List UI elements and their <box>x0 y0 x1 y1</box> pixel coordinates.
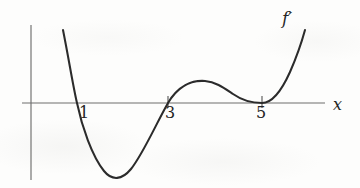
x-tick-label-5: 5 <box>256 105 266 121</box>
derivative-graph-figure: x f′ 1 3 5 <box>0 0 360 188</box>
x-tick-label-3: 3 <box>165 105 175 121</box>
f-prime-curve-label: f′ <box>282 10 292 27</box>
x-tick-label-1: 1 <box>79 105 89 121</box>
plot-canvas <box>0 0 360 188</box>
f-prime-curve <box>63 30 305 178</box>
x-axis-label: x <box>333 97 342 113</box>
